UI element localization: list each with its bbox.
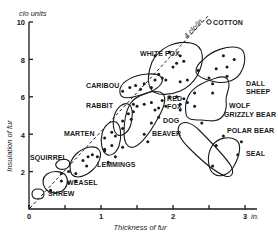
point-weasel-2 [74,172,77,175]
point-white-fox-8 [164,78,167,81]
outline-rabbit [113,104,132,136]
point-wolf-grizzly-bear-8 [193,105,196,108]
y-tick-label-6: 6 [21,93,25,102]
point-caribou-5 [150,86,153,89]
point-white-fox-10 [186,78,189,81]
x-tick-label-2: 2 [171,212,175,221]
point-wolf-grizzly-bear-7 [186,101,189,104]
point-wolf-grizzly-bear-2 [211,92,214,95]
outline-polar-bear [178,123,232,177]
chart-canvas: 10 8 6 4 2 0 1 2 3 in. clo units Thickne… [0,0,278,236]
point-white-fox-7 [161,77,164,80]
point-red-fox-dog-beaver-2 [154,108,157,111]
x-axis-title: Thickness of fur [114,223,167,232]
y-tick-label-2: 2 [21,168,25,177]
y-tick-label-10: 10 [17,18,25,27]
label-rabbit: RABBIT [86,102,114,109]
label-grizzly-bear: GRIZZLY BEAR [224,111,276,118]
point-lemmings-4 [114,155,117,158]
point-lemmings-0 [85,164,88,167]
label-fox: FOX [167,103,182,110]
label-lemmings: LEMMINGS [97,161,136,168]
point-red-fox-dog-beaver-0 [143,103,146,106]
point-rabbit-3 [130,118,133,121]
point-wolf-grizzly-bear-3 [193,92,196,95]
point-caribou-0 [121,90,124,93]
point-red-fox-dog-beaver-8 [157,116,160,119]
point-weasel-0 [60,172,63,175]
x-unit-label: in. [251,212,259,221]
point-wolf-grizzly-bear-6 [182,97,185,100]
outline-lemmings [70,147,101,177]
point-dall-sheep-4 [222,54,225,57]
label-polar-bear: POLAR BEAR [227,127,274,134]
point-white-fox-5 [182,60,185,63]
point-red-fox-dog-beaver-1 [150,101,153,104]
point-marten-2 [114,135,117,138]
point-lemmings-1 [96,155,99,158]
y-unit-label: clo units [19,9,47,18]
point-rabbit-2 [132,110,135,113]
outline-shrew [32,189,44,199]
y-tick-label-4: 4 [21,131,26,140]
reference-line-4clo [30,15,209,208]
point-dall-sheep-5 [233,58,236,61]
label-shrew: SHREW [48,190,75,197]
point-weasel-1 [67,170,70,173]
label-seal: SEAL [246,150,266,157]
point-white-fox-9 [179,80,182,83]
reference-line-label: 4 clo/in. [182,15,206,40]
point-weasel-3 [60,179,63,182]
point-wolf-grizzly-bear-1 [211,82,214,85]
point-caribou-3 [139,88,142,91]
x-tick-label-3: 3 [243,212,247,221]
label-beaver: BEAVER [152,130,181,137]
label-cotton: COTTON [213,19,243,26]
point-polar-bear-2 [222,135,225,138]
point-red-fox-dog-beaver-9 [143,133,146,136]
group-outlines [32,42,245,199]
cotton-marker [207,20,211,24]
point-wolf-grizzly-bear-0 [208,77,211,80]
point-dall-sheep-2 [226,65,229,68]
label-weasel: WEASEL [67,179,98,186]
point-seal-1 [211,164,214,167]
point-marten-4 [121,127,124,130]
point-rabbit-0 [121,120,124,123]
point-caribou-4 [143,82,146,85]
point-rabbit-5 [132,103,135,106]
point-squirrel-2 [91,153,94,156]
point-seal-3 [240,140,243,143]
point-marten-3 [121,146,124,149]
point-marten-0 [103,136,106,139]
point-caribou-1 [128,86,131,89]
point-red-fox-dog-beaver-7 [150,121,153,124]
label-dall: DALL [246,80,266,87]
point-dall-sheep-1 [215,67,218,70]
y-tick-label-8: 8 [21,56,25,65]
point-squirrel-0 [82,159,85,162]
label-squirrel: SQUIRREL [30,154,68,162]
point-white-fox-2 [175,62,178,65]
point-red-fox-dog-beaver-10 [146,140,149,143]
x-tick-label-0: 0 [27,212,31,221]
point-caribou-2 [134,84,137,87]
point-red-fox-dog-beaver-4 [161,99,164,102]
label-marten: MARTEN [64,130,95,137]
label-wolf: WOLF [229,102,251,109]
point-white-fox-4 [172,65,175,68]
point-caribou-6 [154,78,157,81]
y-axis-title: Insulation of fur [5,120,14,172]
point-seal-2 [236,153,239,156]
label-dog: DOG [163,117,180,124]
label-sheep: SHEEP [246,88,270,95]
point-dall-sheep-3 [226,75,229,78]
point-red-fox-dog-beaver-3 [157,107,160,110]
point-lemmings-3 [110,144,113,147]
label-red: RED [167,95,182,102]
point-dall-sheep-0 [197,69,200,72]
point-lemmings-6 [103,150,106,153]
point-white-fox-6 [157,73,160,76]
point-rabbit-1 [127,112,130,115]
point-squirrel-1 [87,155,90,158]
